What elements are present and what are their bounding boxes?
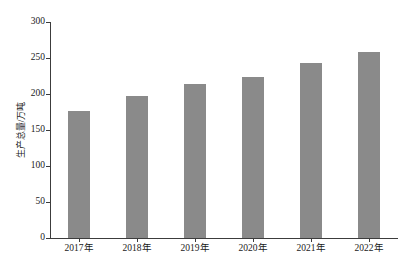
y-tick-mark bbox=[46, 166, 50, 167]
y-tick-label: 100 bbox=[31, 161, 45, 171]
x-tick-mark bbox=[311, 238, 312, 242]
bar bbox=[358, 52, 380, 238]
x-tick-mark bbox=[369, 238, 370, 242]
plot-area: 050100150200250300 bbox=[50, 22, 398, 238]
x-tick-label: 2017年 bbox=[50, 244, 108, 254]
x-tick-label: 2019年 bbox=[166, 244, 224, 254]
y-axis-title: 生产总量/万吨 bbox=[14, 22, 28, 238]
x-tick-label: 2022年 bbox=[340, 244, 398, 254]
x-tick-mark bbox=[137, 238, 138, 242]
x-tick-label: 2020年 bbox=[224, 244, 282, 254]
x-tick-mark bbox=[195, 238, 196, 242]
bar bbox=[184, 84, 206, 238]
x-tick-label: 2021年 bbox=[282, 244, 340, 254]
bar bbox=[242, 77, 264, 238]
bar bbox=[68, 111, 90, 238]
y-tick-mark bbox=[46, 202, 50, 203]
y-tick-mark bbox=[46, 22, 50, 23]
y-tick-label: 150 bbox=[31, 125, 45, 135]
y-tick-mark bbox=[46, 130, 50, 131]
y-tick-mark bbox=[46, 94, 50, 95]
y-tick-label: 50 bbox=[36, 197, 46, 207]
bar bbox=[126, 96, 148, 238]
x-tick-label: 2018年 bbox=[108, 244, 166, 254]
y-tick-label: 0 bbox=[40, 233, 45, 243]
y-tick-label: 250 bbox=[31, 53, 45, 63]
y-tick-mark bbox=[46, 58, 50, 59]
y-tick-label: 200 bbox=[31, 89, 45, 99]
x-tick-mark bbox=[79, 238, 80, 242]
bar-chart-figure: 050100150200250300 2017年2018年2019年2020年2… bbox=[0, 0, 405, 276]
x-axis-line bbox=[50, 238, 398, 239]
y-tick-mark bbox=[46, 238, 50, 239]
bar bbox=[300, 63, 322, 238]
y-tick-label: 300 bbox=[31, 17, 45, 27]
x-tick-mark bbox=[253, 238, 254, 242]
